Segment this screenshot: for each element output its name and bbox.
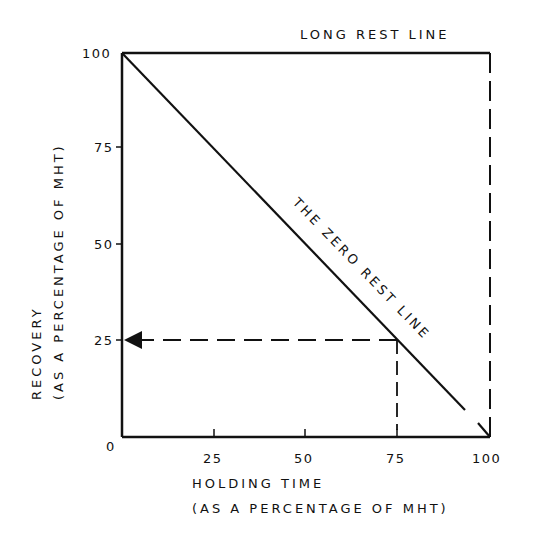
x-axis-sublabel: (AS A PERCENTAGE OF MHT) (192, 501, 449, 516)
chart: 100 75 50 25 0 25 50 75 100 HOLDING TIME… (0, 0, 534, 539)
x-tick-label-25: 25 (203, 451, 223, 466)
x-tick-label-50: 50 (294, 451, 314, 466)
y-tick-label-75: 75 (94, 140, 114, 155)
y-tick-label-25: 25 (94, 333, 114, 348)
y-axis-sublabel: (AS A PERCENTAGE OF MHT) (51, 143, 66, 400)
x-tick-label-75: 75 (386, 451, 406, 466)
x-axis-label: HOLDING TIME (192, 476, 324, 491)
long-rest-line-label: LONG REST LINE (300, 27, 450, 42)
y-tick-label-50: 50 (94, 237, 114, 252)
arrowhead-icon (124, 331, 142, 349)
y-axis-label: RECOVERY (29, 306, 44, 400)
zero-rest-line (122, 53, 465, 410)
y-tick-label-100: 100 (82, 46, 111, 61)
origin-label: 0 (106, 439, 116, 454)
zero-rest-line-label: THE ZERO REST LINE (289, 194, 433, 343)
x-tick-label-100: 100 (472, 451, 501, 466)
zero-rest-line-end (478, 423, 490, 437)
